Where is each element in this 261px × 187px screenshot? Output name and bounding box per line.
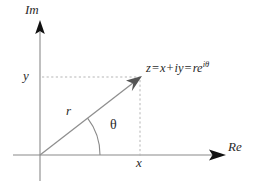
equals-sign-2: = (184, 61, 193, 75)
z-equation-label: z=x+iy=reiθ (146, 62, 209, 75)
theta-angle-label: θ (110, 118, 117, 132)
y-coordinate-label: y (23, 69, 29, 82)
iy-term: iy (175, 61, 184, 75)
imaginary-axis-label: Im (25, 3, 39, 16)
radius-vector-line (40, 83, 133, 155)
x-term: x (160, 61, 166, 75)
x-coordinate-label: x (136, 156, 142, 169)
real-axis-label: Re (228, 140, 242, 153)
theta-angle-arc (88, 118, 100, 155)
i-theta-exponent: iθ (203, 59, 210, 69)
plus-sign: + (166, 61, 175, 75)
complex-plane-figure: Im Re y x r θ z=x+iy=reiθ (0, 0, 261, 187)
radius-label: r (66, 104, 71, 117)
equals-sign-1: = (151, 61, 160, 75)
imaginary-axis-arrowhead (35, 20, 45, 34)
radius-vector-arrowhead (126, 76, 142, 91)
figure-canvas (0, 0, 261, 187)
